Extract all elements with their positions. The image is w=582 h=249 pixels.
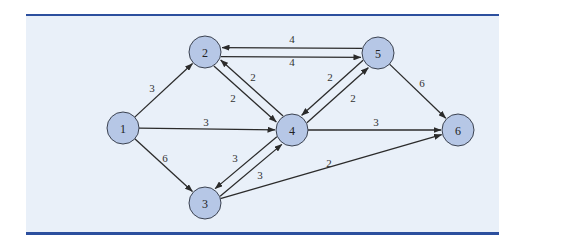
edge-5-to-6 xyxy=(390,64,446,118)
edge-weight-5-6: 6 xyxy=(419,77,425,89)
edge-2-to-4 xyxy=(214,66,276,122)
edge-5-to-2 xyxy=(222,48,362,49)
edge-1-to-4 xyxy=(139,128,275,130)
edge-weight-3-4: 3 xyxy=(257,169,263,181)
edge-4-to-3 xyxy=(215,137,277,189)
node-6: 6 xyxy=(442,114,474,146)
edge-4-to-2 xyxy=(221,60,283,116)
edge-weight-4-6: 3 xyxy=(373,116,379,128)
node-label: 6 xyxy=(455,124,461,138)
node-4: 4 xyxy=(276,114,308,146)
node-label: 4 xyxy=(289,124,295,138)
edge-weight-4-3: 3 xyxy=(232,152,238,164)
edge-weight-5-4: 2 xyxy=(327,71,333,83)
edge-weight-4-5: 2 xyxy=(350,92,356,104)
edge-weight-3-6: 2 xyxy=(326,157,332,169)
edge-1-to-2 xyxy=(135,64,193,118)
edge-1-to-3 xyxy=(135,139,193,192)
node-1: 1 xyxy=(107,112,139,144)
edge-weight-1-3: 6 xyxy=(162,152,168,164)
edge-weight-1-2: 3 xyxy=(149,82,155,94)
edge-5-to-4 xyxy=(302,60,363,115)
network-diagram: 33644222263332 123456 xyxy=(0,0,582,249)
node-label: 3 xyxy=(202,197,208,211)
edge-4-to-5 xyxy=(307,68,368,123)
node-label: 2 xyxy=(202,46,208,60)
edge-3-to-4 xyxy=(220,144,282,196)
node-5: 5 xyxy=(362,37,394,69)
edge-weight-5-2: 4 xyxy=(289,56,295,68)
node-3: 3 xyxy=(189,187,221,219)
edge-weight-1-4: 3 xyxy=(203,116,209,128)
node-label: 1 xyxy=(120,122,126,136)
node-label: 5 xyxy=(375,47,381,61)
edge-weight-2-4: 2 xyxy=(230,92,236,104)
edge-weight-4-2: 2 xyxy=(250,71,256,83)
edge-weight-2-5: 4 xyxy=(289,33,295,45)
node-2: 2 xyxy=(189,36,221,68)
